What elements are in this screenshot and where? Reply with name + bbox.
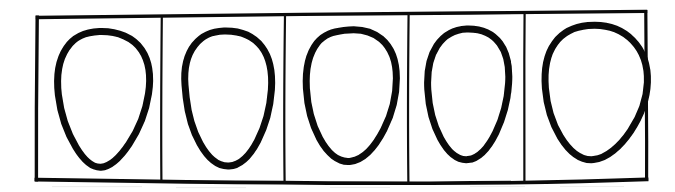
- divider-1: [161, 16, 162, 181]
- figure-root: Hand-drawn egg shape series A horizontal…: [0, 0, 675, 192]
- hand-drawn-figure: [0, 0, 675, 192]
- frame-left-edge: [36, 17, 37, 180]
- divider-2: [284, 15, 285, 183]
- divider-3: [408, 14, 409, 183]
